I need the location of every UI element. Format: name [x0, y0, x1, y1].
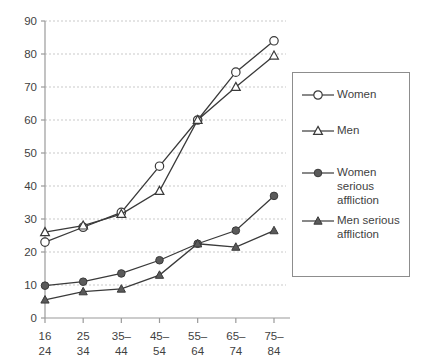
y-tick-labels: 0102030405060708090	[24, 15, 37, 324]
legend-marker	[314, 169, 322, 177]
x-tick-label-top: 75–	[264, 330, 284, 342]
x-tick-label-bottom: 34	[77, 345, 90, 357]
data-point	[155, 162, 163, 170]
x-tick-label-bottom: 54	[153, 345, 166, 357]
series-line	[45, 56, 274, 233]
x-tick-label-bottom: 44	[115, 345, 128, 357]
data-point	[270, 37, 278, 45]
legend-marker	[314, 91, 322, 99]
y-axis	[41, 21, 45, 318]
legend-label: Women	[335, 87, 376, 101]
data-point	[118, 270, 126, 278]
y-tick-label: 40	[24, 180, 37, 192]
legend-label: Men	[335, 123, 359, 137]
legend-label: Men serious affliction	[335, 213, 400, 241]
series-4	[41, 226, 278, 303]
series-1	[41, 37, 278, 247]
data-point	[231, 82, 240, 90]
legend-item-women-serious-affliction: Women serious affliction	[301, 165, 409, 207]
series-2	[41, 51, 279, 236]
legend-item-men: Men	[301, 123, 359, 138]
x-tick-label-top: 35–	[112, 330, 132, 342]
y-tick-label: 10	[24, 279, 37, 291]
data-point	[41, 282, 49, 290]
y-tick-label: 30	[24, 213, 37, 225]
y-tick-label: 20	[24, 246, 37, 258]
data-point	[232, 68, 240, 76]
data-series	[41, 37, 279, 303]
data-point	[232, 227, 240, 235]
y-tick-label: 0	[31, 312, 37, 324]
x-tick-label-top: 65–	[226, 330, 246, 342]
series-line	[45, 231, 274, 300]
x-tick-label-bottom: 64	[191, 345, 204, 357]
legend: Women Men Women serious affliction Men s…	[292, 72, 410, 277]
x-tick-label-top: 16	[39, 330, 52, 342]
data-point	[270, 192, 278, 200]
filled-triangle-icon	[301, 214, 335, 228]
legend-label: Women serious affliction	[335, 165, 409, 207]
x-tick-label-bottom: 24	[39, 345, 52, 357]
y-tick-label: 60	[24, 114, 37, 126]
data-point	[79, 278, 87, 286]
y-tick-label: 70	[24, 81, 37, 93]
y-tick-label: 80	[24, 48, 37, 60]
legend-marker	[314, 126, 323, 134]
legend-item-women: Women	[301, 87, 376, 102]
line-chart: 0102030405060708090 1624253435–4445–5455…	[0, 0, 426, 364]
data-point	[41, 238, 49, 246]
x-tick-labels: 1624253435–4445–5455–6465–7475–84	[39, 330, 285, 357]
y-tick-label: 90	[24, 15, 37, 27]
x-axis	[45, 318, 290, 323]
data-point	[156, 256, 164, 264]
open-circle-icon	[301, 88, 335, 102]
x-tick-label-bottom: 74	[229, 345, 242, 357]
x-tick-label-bottom: 84	[268, 345, 281, 357]
y-tick-label: 50	[24, 147, 37, 159]
x-tick-label-top: 45–	[150, 330, 170, 342]
x-tick-label-top: 25	[77, 330, 90, 342]
data-point	[270, 226, 278, 234]
data-point	[270, 51, 279, 59]
open-triangle-icon	[301, 124, 335, 138]
legend-item-men-serious-affliction: Men serious affliction	[301, 213, 400, 241]
data-point	[155, 186, 164, 194]
x-tick-label-top: 55–	[188, 330, 208, 342]
filled-circle-icon	[301, 166, 335, 180]
